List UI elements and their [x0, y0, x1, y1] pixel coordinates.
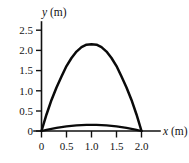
y-axis-label-unit: (m): [47, 6, 67, 19]
y-axis-label: y (m): [41, 6, 67, 19]
x-tick-label-0.5: 0.5: [60, 140, 74, 152]
y-tick-label-2.0: 2.0: [19, 44, 33, 56]
y-tick-label-1.0: 1.0: [19, 85, 33, 97]
x-axis-label: x (m): [162, 125, 188, 138]
y-tick-label-2.5: 2.5: [19, 24, 33, 36]
x-tick-label-0: 0: [39, 140, 45, 152]
y-tick-label-0.5: 0.5: [19, 105, 33, 117]
projectile-trajectory-plot: 2.5 2.0 1.5 1.0 0.5 0 0 0.5 1.0 1.5 2.0 …: [0, 0, 189, 163]
chart-figure: 2.5 2.0 1.5 1.0 0.5 0 0 0.5 1.0 1.5 2.0 …: [0, 0, 189, 163]
x-tick-label-2.0: 2.0: [135, 140, 149, 152]
trajectory-curve-low: [42, 125, 142, 131]
x-axis-label-unit: (m): [168, 125, 188, 138]
trajectory-curve-high: [42, 44, 142, 131]
y-tick-label-0: 0: [28, 125, 34, 137]
x-tick-label-1.0: 1.0: [85, 140, 99, 152]
x-tick-label-1.5: 1.5: [110, 140, 124, 152]
y-tick-label-1.5: 1.5: [19, 64, 33, 76]
